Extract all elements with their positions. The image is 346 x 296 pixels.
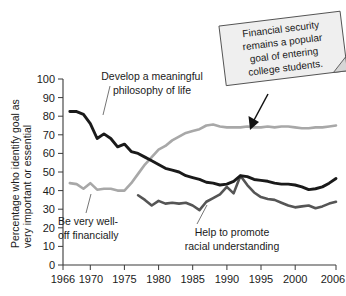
x-tick-label: 1970 [79,273,103,285]
series-label-line: off financially [58,229,119,241]
y-tick-label: 0 [49,259,55,271]
series-line-racial-understanding [138,176,336,210]
y-tick-label: 40 [43,185,55,197]
y-tick-label: 90 [43,92,55,104]
y-tick-label: 30 [43,203,55,215]
series-label-financial: Be very well- off financially [58,215,119,241]
series-line-philosophy-of-life [70,112,336,190]
y-tick-label: 50 [43,166,55,178]
x-axis-tick-labels: 1966 1970 1975 1980 1985 1990 1995 2000 … [51,273,345,285]
x-tick-label: 1985 [180,273,204,285]
series-label-line: Help to promote [195,226,270,238]
series-label-line: racial understanding [185,240,280,252]
y-tick-label: 20 [43,222,55,234]
y-axis-title-line1: Percentage who identify goal as [9,99,21,248]
y-tick-label: 100 [37,73,55,85]
series-label-philosophy: Develop a meaningful philosophy of life [101,70,203,96]
leader-financial [86,194,91,213]
x-tick-label: 1980 [146,273,170,285]
y-tick-label: 60 [43,147,55,159]
x-tick-label: 1975 [112,273,136,285]
chart-container: 100 90 80 70 60 50 40 30 20 10 0 1966 [0,0,346,296]
y-tick-label: 70 [43,129,55,141]
y-tick-label: 80 [43,110,55,122]
series-label-line: Be very well- [58,215,119,227]
y-axis-tick-labels: 100 90 80 70 60 50 40 30 20 10 0 [37,73,55,271]
series-label-line: Develop a meaningful [101,70,203,82]
y-axis-title-line2: very important or essential [21,125,33,248]
series-group [70,112,336,211]
y-tick-label: 10 [43,240,55,252]
x-tick-label: 1990 [215,273,239,285]
x-tick-label: 1995 [249,273,273,285]
x-axis-ticks [63,265,336,270]
y-axis-title: Percentage who identify goal as very imp… [9,99,33,248]
x-tick-label: 2006 [321,273,345,285]
x-tick-label: 2000 [283,273,307,285]
callout-note: Financial security remains a popular goa… [219,11,346,85]
line-chart: 100 90 80 70 60 50 40 30 20 10 0 1966 [0,0,346,296]
x-tick-label: 1966 [51,273,75,285]
series-label-racial: Help to promote racial understanding [185,226,280,252]
callout-arrow-icon [249,94,269,130]
leader-philosophy [103,86,110,115]
series-label-line: philosophy of life [113,84,191,96]
